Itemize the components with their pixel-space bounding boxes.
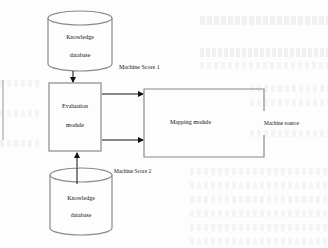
evaluation-module-box <box>49 83 101 151</box>
machine-source-label: Machine source <box>264 120 299 126</box>
knowledge-db-bottom-label-line2: database <box>52 212 110 218</box>
machine-score-1-label: Machine Score 1 <box>119 64 160 70</box>
knowledge-db-top-label-line1: Knowledge <box>52 34 108 40</box>
knowledge-database-bottom-cylinder <box>50 168 112 235</box>
mapping-module-label: Mapping module <box>170 119 211 125</box>
scanned-page: Knowledge database Machine Score 1 Evalu… <box>0 0 328 248</box>
machine-score-2-label: Machine Score 2 <box>114 168 151 174</box>
knowledge-db-top-label-line2: database <box>52 52 108 58</box>
knowledge-database-top-cylinder <box>48 11 112 71</box>
knowledge-db-bottom-label-line1: Knowledge <box>52 195 110 201</box>
evaluation-module-label-line2: module <box>49 122 101 128</box>
evaluation-module-label-line1: Evaluation <box>49 103 101 109</box>
